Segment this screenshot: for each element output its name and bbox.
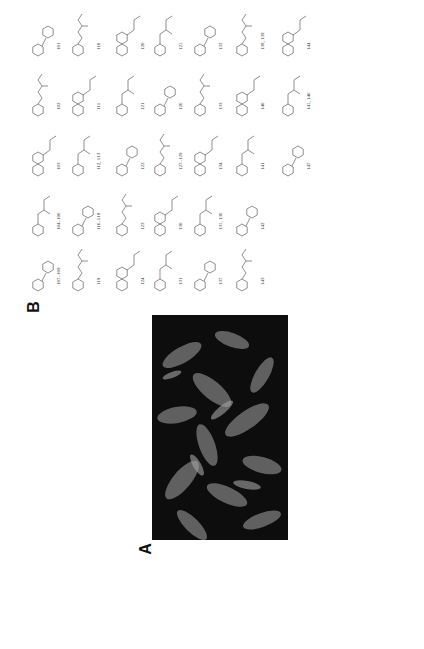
structure-drawing-icon: [278, 10, 314, 62]
compound-structure: 121: [112, 70, 148, 122]
compound-number: 124: [140, 278, 145, 286]
structure-drawing-icon: [112, 245, 148, 297]
compound-structure: 124: [112, 245, 148, 297]
structure-drawing-icon: [190, 130, 226, 182]
foliage-image-icon: [152, 315, 288, 540]
compound-structure: 137: [190, 245, 226, 297]
compound-structure: 107–109: [28, 245, 64, 297]
compound-number: 112, 113: [96, 153, 101, 170]
compound-structure: 111: [68, 70, 104, 122]
compound-number: 132: [218, 43, 223, 51]
compound-number: 127–129: [178, 153, 183, 171]
compound-structure: 140: [232, 70, 268, 122]
compound-number: 126: [178, 103, 183, 111]
compound-structure: 116–118: [68, 190, 104, 242]
compound-number: 141: [260, 163, 265, 171]
compound-number: 147: [306, 163, 311, 171]
compound-number: 119: [96, 278, 101, 285]
compound-structure: 142: [232, 190, 268, 242]
structure-drawing-icon: [278, 130, 314, 182]
compound-number: 134: [218, 163, 223, 171]
compound-structure: 104–106: [28, 190, 64, 242]
compound-structure: 120: [112, 10, 148, 62]
structure-drawing-icon: [28, 130, 64, 182]
structure-drawing-icon: [68, 10, 104, 62]
structure-drawing-icon: [232, 70, 268, 122]
compound-number: 116–118: [96, 213, 101, 230]
plant-photograph: [152, 315, 288, 540]
structure-drawing-icon: [190, 70, 226, 122]
compound-structure-grid: 101102103104–106107–109110111112, 113116…: [20, 0, 424, 300]
compound-structure: 126: [150, 70, 186, 122]
structure-drawing-icon: [232, 130, 268, 182]
compound-structure: 110: [68, 10, 104, 62]
panel-label-a: A: [137, 543, 155, 555]
structure-drawing-icon: [112, 130, 148, 182]
compound-number: 138, 139: [260, 33, 265, 51]
compound-structure: 123: [112, 190, 148, 242]
compound-number: 125: [178, 43, 183, 51]
compound-structure: 135, 136: [190, 190, 226, 242]
compound-number: 123: [140, 223, 145, 231]
compound-number: 144: [306, 43, 311, 51]
compound-number: 104–106: [56, 213, 61, 231]
compound-number: 133: [218, 103, 223, 111]
compound-number: 140: [260, 103, 265, 111]
structure-drawing-icon: [68, 245, 104, 297]
structure-drawing-icon: [68, 70, 104, 122]
structure-drawing-icon: [112, 190, 148, 242]
compound-structure: 122: [112, 130, 148, 182]
compound-number: 143: [260, 278, 265, 286]
compound-number: 121: [140, 103, 145, 111]
compound-structure: 134: [190, 130, 226, 182]
structure-drawing-icon: [190, 245, 226, 297]
compound-number: 131: [178, 278, 183, 286]
structure-drawing-icon: [150, 190, 186, 242]
compound-structure: 138, 139: [232, 10, 268, 62]
compound-number: 135, 136: [218, 213, 223, 231]
compound-number: 103: [56, 163, 61, 171]
structure-drawing-icon: [150, 70, 186, 122]
compound-structure: 102: [28, 70, 64, 122]
compound-structure: 141: [232, 130, 268, 182]
structure-drawing-icon: [232, 245, 268, 297]
compound-number: 145, 146: [306, 93, 311, 111]
compound-number: 142: [260, 223, 265, 231]
compound-number: 130: [178, 223, 183, 231]
structure-drawing-icon: [28, 10, 64, 62]
compound-structure: 119: [68, 245, 104, 297]
compound-structure: 133: [190, 70, 226, 122]
compound-number: 102: [56, 103, 61, 111]
compound-structure: 101: [28, 10, 64, 62]
compound-structure: 127–129: [150, 130, 186, 182]
compound-structure: 144: [278, 10, 314, 62]
compound-structure: 132: [190, 10, 226, 62]
structure-drawing-icon: [190, 10, 226, 62]
panel-label-b: B: [25, 301, 43, 313]
compound-number: 101: [56, 43, 61, 51]
structure-drawing-icon: [28, 70, 64, 122]
compound-structure: 143: [232, 245, 268, 297]
compound-number: 122: [140, 163, 145, 171]
compound-number: 107–109: [56, 268, 61, 286]
compound-structure: 125: [150, 10, 186, 62]
structure-drawing-icon: [150, 245, 186, 297]
compound-number: 137: [218, 278, 223, 286]
compound-structure: 103: [28, 130, 64, 182]
compound-number: 120: [140, 43, 145, 51]
compound-structure: 147: [278, 130, 314, 182]
structure-drawing-icon: [112, 70, 148, 122]
structure-drawing-icon: [150, 10, 186, 62]
structure-drawing-icon: [112, 10, 148, 62]
compound-structure: 131: [150, 245, 186, 297]
compound-number: 110: [96, 43, 101, 50]
structure-drawing-icon: [232, 190, 268, 242]
compound-number: 111: [96, 103, 101, 110]
compound-structure: 130: [150, 190, 186, 242]
compound-structure: 145, 146: [278, 70, 314, 122]
compound-structure: 112, 113: [68, 130, 104, 182]
